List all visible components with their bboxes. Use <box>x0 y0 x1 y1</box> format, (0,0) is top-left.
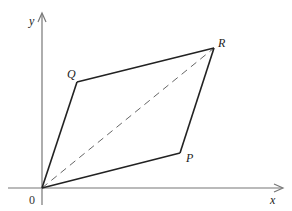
origin-label: 0 <box>29 193 35 207</box>
axes <box>8 13 283 205</box>
edge-PR <box>180 48 214 153</box>
y-axis-label: y <box>28 14 35 28</box>
edge-OQ <box>42 82 77 188</box>
point-label-R: R <box>217 36 226 50</box>
point-label-P: P <box>185 151 194 165</box>
x-axis-label: x <box>269 193 276 207</box>
parallelogram-diagram: y x 0 Q R P <box>0 0 292 211</box>
point-label-Q: Q <box>67 67 76 81</box>
edge-OP <box>42 153 180 188</box>
